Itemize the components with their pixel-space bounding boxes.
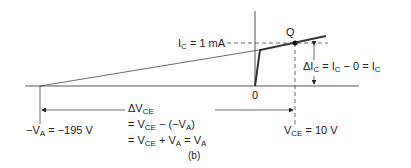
delta-ic-label: ΔIC = IC − 0 = IC: [303, 60, 381, 76]
figure-caption: (b): [188, 150, 200, 162]
q-point: [293, 41, 298, 46]
q-label: Q: [286, 26, 295, 38]
delta-vce-label: ΔVCE = VCE − (−VA) = VCE + VA = VA: [128, 102, 206, 150]
origin-label: 0: [252, 89, 258, 101]
vce-label: VCE = 10 V: [284, 124, 338, 140]
va-label: −VA = −195 V: [26, 124, 93, 140]
extrapolation-line: [40, 50, 259, 86]
ic-label: IC = 1 mA: [178, 37, 225, 53]
